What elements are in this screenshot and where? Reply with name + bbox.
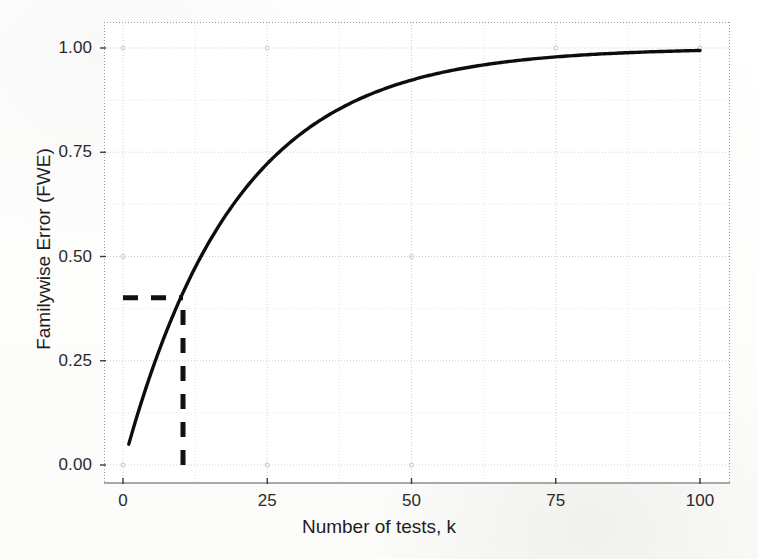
y-axis-title: Familywise Error (FWE) xyxy=(33,39,55,459)
x-tick-label-100: 100 xyxy=(670,491,730,511)
x-tick-label-0: 0 xyxy=(93,491,153,511)
chart-page: 1.000.750.500.250.00 0255075100 Number o… xyxy=(0,0,758,559)
x-axis-line xyxy=(104,478,730,484)
x-axis-title: Number of tests, k xyxy=(0,516,758,538)
x-tick-label-25: 25 xyxy=(237,491,297,511)
x-tick-label-50: 50 xyxy=(382,491,442,511)
x-tick-label-75: 75 xyxy=(526,491,586,511)
axis-lines xyxy=(0,0,758,559)
